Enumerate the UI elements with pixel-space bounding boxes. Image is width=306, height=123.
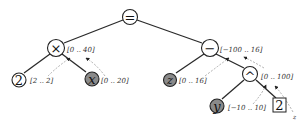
edge-minus-pow	[216, 54, 244, 68]
node-constant-2-boxed: 2	[273, 98, 286, 113]
node-variable-x: x	[85, 72, 99, 87]
node-equals: =	[123, 10, 138, 25]
edge-mul-x	[62, 54, 86, 72]
node-variable-y: y	[210, 99, 224, 114]
expression-tree-diagram: = × [0 .. 40] 2 [2 .. 2] x [0 .. 20] − […	[0, 0, 306, 123]
arrow-z-to-minus	[205, 58, 229, 76]
interval-variable-y: [−10 .. 10]	[228, 104, 266, 112]
node-variable-z: z	[164, 74, 177, 87]
edge-mul-2	[24, 54, 50, 73]
svg-text:−: −	[205, 41, 216, 56]
interval-multiply: [0 .. 40]	[67, 46, 95, 54]
interval-minus: [−100 .. 16]	[220, 46, 263, 54]
corner-label: z	[292, 113, 297, 120]
edge-minus-z	[176, 54, 204, 73]
node-power: ^	[243, 67, 258, 84]
svg-text:×: ×	[51, 41, 62, 56]
svg-text:z: z	[166, 74, 173, 87]
interval-constant-2: [2 .. 2]	[30, 77, 54, 85]
arrow-2-to-mul	[48, 58, 70, 76]
node-constant-2: 2	[12, 73, 26, 88]
node-multiply: ×	[48, 40, 65, 57]
interval-variable-z: [0 .. 16]	[179, 77, 207, 85]
interval-power: [0 .. 100]	[261, 73, 293, 81]
edge-eq-minus	[137, 20, 202, 43]
svg-text:^: ^	[245, 69, 256, 84]
edge-eq-mul	[64, 20, 123, 43]
edge-pow-y	[222, 80, 244, 99]
edge-pow-2	[256, 80, 276, 98]
arrow-pow-to-minus	[244, 57, 264, 68]
svg-text:2: 2	[15, 73, 23, 88]
tree-edges	[24, 20, 276, 99]
svg-text:=: =	[125, 10, 136, 25]
interval-variable-x: [0 .. 20]	[101, 77, 129, 85]
node-minus: −	[202, 40, 219, 57]
svg-text:2: 2	[275, 98, 283, 113]
svg-text:y: y	[212, 99, 221, 114]
svg-text:x: x	[88, 72, 96, 87]
